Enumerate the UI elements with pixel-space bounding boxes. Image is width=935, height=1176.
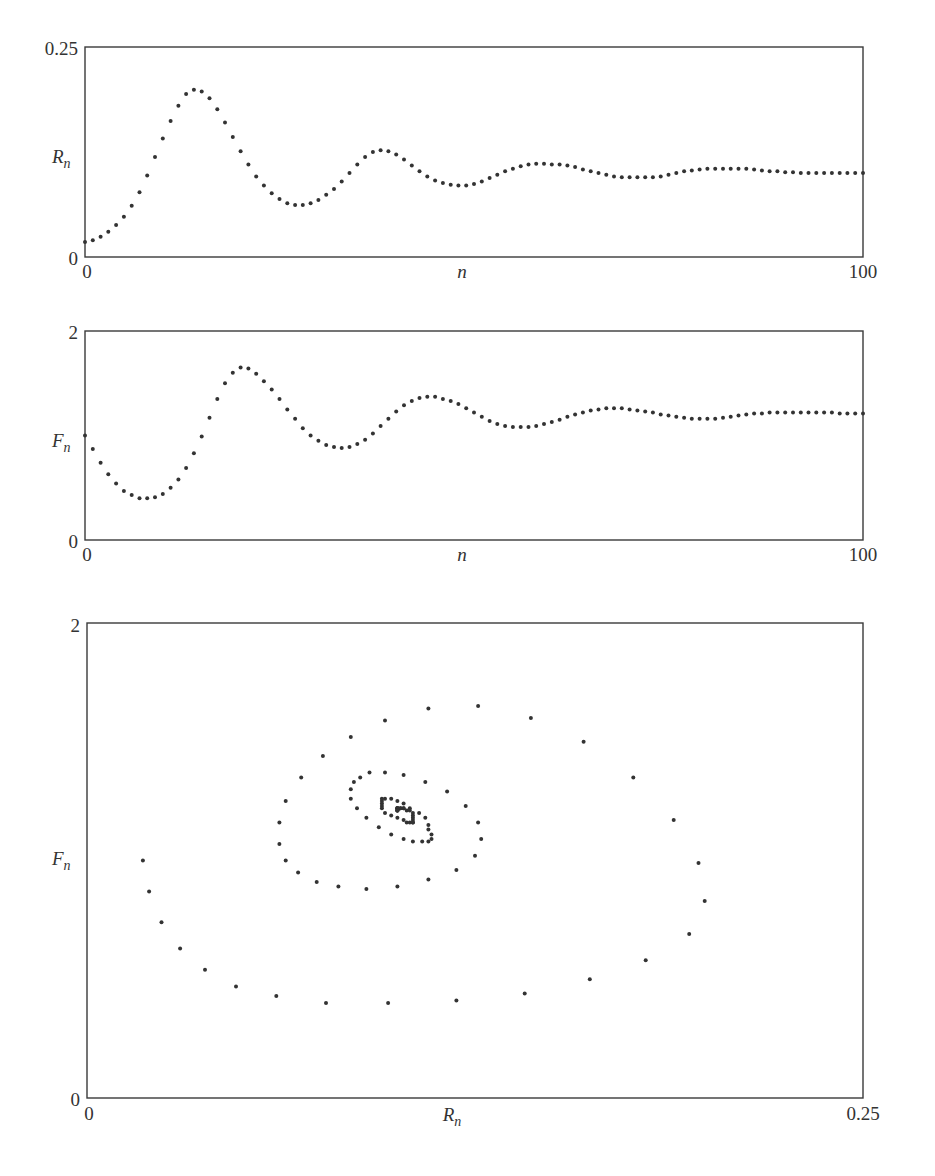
data-point bbox=[380, 806, 384, 810]
data-point bbox=[106, 230, 110, 234]
data-point bbox=[768, 411, 772, 415]
data-point bbox=[729, 415, 733, 419]
data-point bbox=[737, 167, 741, 171]
data-point bbox=[145, 496, 149, 500]
data-point bbox=[534, 162, 538, 166]
x-min-tick: 0 bbox=[82, 261, 92, 282]
data-point bbox=[752, 412, 756, 416]
data-point bbox=[285, 407, 289, 411]
data-point bbox=[426, 707, 430, 711]
data-point bbox=[597, 171, 601, 175]
data-point bbox=[371, 150, 375, 154]
data-point bbox=[278, 397, 282, 401]
data-point bbox=[106, 472, 110, 476]
data-point bbox=[853, 412, 857, 416]
data-point bbox=[309, 201, 313, 205]
data-point bbox=[262, 379, 266, 383]
data-point bbox=[488, 419, 492, 423]
data-point bbox=[425, 395, 429, 399]
data-point bbox=[476, 704, 480, 708]
data-point bbox=[433, 179, 437, 183]
data-point bbox=[814, 411, 818, 415]
data-point bbox=[145, 174, 149, 178]
data-point bbox=[349, 735, 353, 739]
data-point bbox=[703, 899, 707, 903]
data-point bbox=[160, 920, 164, 924]
data-point bbox=[192, 88, 196, 92]
x-axis-label: n bbox=[457, 544, 467, 565]
data-point bbox=[254, 174, 258, 178]
data-point bbox=[674, 415, 678, 419]
data-point bbox=[239, 366, 243, 370]
data-point bbox=[838, 171, 842, 175]
data-point bbox=[643, 175, 647, 179]
data-point bbox=[690, 417, 694, 421]
data-point bbox=[410, 399, 414, 403]
data-point bbox=[200, 435, 204, 439]
figure: 0.25 0 0 100 n Rn 2 0 0 100 n Fn 2 0 0 0… bbox=[0, 0, 935, 1176]
data-point bbox=[200, 90, 204, 94]
data-point bbox=[138, 496, 142, 500]
data-point bbox=[203, 968, 207, 972]
data-point bbox=[83, 240, 87, 244]
data-point bbox=[91, 238, 95, 242]
data-point bbox=[394, 153, 398, 157]
data-point bbox=[418, 169, 422, 173]
data-point bbox=[643, 410, 647, 414]
data-point bbox=[550, 163, 554, 167]
data-point bbox=[674, 171, 678, 175]
data-point bbox=[389, 832, 393, 836]
data-point bbox=[299, 775, 303, 779]
y-axis-label: Fn bbox=[51, 430, 71, 455]
data-point bbox=[358, 775, 362, 779]
data-point bbox=[383, 771, 387, 775]
y-max-tick: 0.25 bbox=[45, 38, 78, 59]
y-min-tick: 0 bbox=[71, 1089, 81, 1110]
data-point bbox=[138, 190, 142, 194]
data-point bbox=[99, 235, 103, 239]
data-point bbox=[426, 823, 430, 827]
data-point bbox=[476, 821, 480, 825]
data-point bbox=[604, 173, 608, 177]
data-point bbox=[379, 424, 383, 428]
data-point bbox=[315, 880, 319, 884]
data-point bbox=[324, 443, 328, 447]
data-point bbox=[698, 168, 702, 172]
data-point bbox=[91, 447, 95, 451]
data-point bbox=[169, 486, 173, 490]
data-point bbox=[371, 431, 375, 435]
data-point bbox=[147, 889, 151, 893]
data-point bbox=[402, 773, 406, 777]
data-point bbox=[550, 420, 554, 424]
data-point bbox=[270, 191, 274, 195]
data-point bbox=[161, 492, 165, 496]
data-point bbox=[379, 148, 383, 152]
data-point bbox=[332, 445, 336, 449]
data-point bbox=[690, 169, 694, 173]
data-point bbox=[488, 176, 492, 180]
data-point bbox=[153, 495, 157, 499]
data-point bbox=[783, 411, 787, 415]
x-axis-label: Rn bbox=[442, 1104, 462, 1129]
data-point bbox=[473, 854, 477, 858]
data-point bbox=[176, 477, 180, 481]
data-point bbox=[456, 402, 460, 406]
data-point bbox=[612, 406, 616, 410]
data-point bbox=[277, 821, 281, 825]
data-point bbox=[348, 445, 352, 449]
data-point bbox=[418, 396, 422, 400]
data-point bbox=[402, 403, 406, 407]
data-point bbox=[364, 816, 368, 820]
data-point bbox=[296, 870, 300, 874]
data-point bbox=[430, 832, 434, 836]
data-point bbox=[542, 422, 546, 426]
data-point bbox=[178, 946, 182, 950]
data-point bbox=[383, 811, 387, 815]
data-point bbox=[791, 411, 795, 415]
data-point bbox=[565, 415, 569, 419]
x-min-tick: 0 bbox=[82, 544, 92, 565]
data-point bbox=[324, 193, 328, 197]
data-point bbox=[565, 163, 569, 167]
data-point bbox=[395, 816, 399, 820]
data-point bbox=[799, 171, 803, 175]
